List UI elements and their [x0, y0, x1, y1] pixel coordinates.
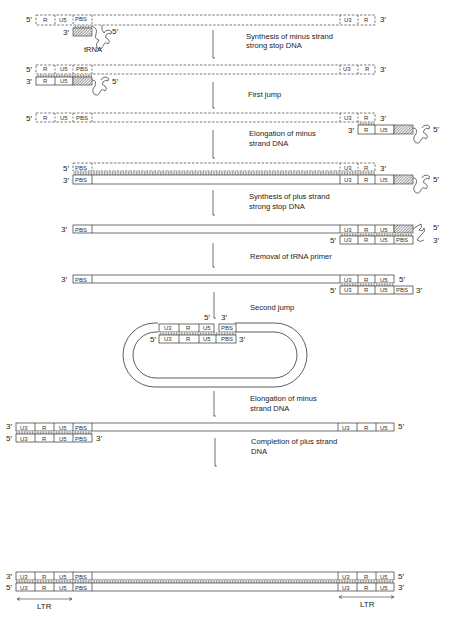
five-prime-label: 5′: [26, 65, 32, 74]
five-prime-label: 5′: [150, 335, 156, 344]
region-u5: U5: [380, 287, 388, 293]
region-u5: U5: [380, 177, 388, 183]
region-r: R: [186, 336, 191, 342]
three-prime-label: 3′: [6, 572, 12, 581]
ltr-right: LTR: [339, 596, 394, 610]
stage-6-trna-removed: 3′ PBS U3 R U5 5′ U3 R U5 PBS 5′ 3′: [61, 275, 422, 295]
stage-8-minus-complete: 3′ U3 R U5 PBS U3 R U5 5′ U3 R U5 PBS 5′…: [6, 422, 404, 443]
region-pbs: PBS: [75, 227, 87, 233]
ltr-label: LTR: [360, 600, 375, 609]
region-pbs: PBS: [221, 325, 233, 331]
region-r: R: [364, 127, 369, 133]
trna-cloverleaf-icon: [413, 125, 430, 143]
region-u5: U5: [380, 237, 388, 243]
step-label: Removal of tRNA primer: [250, 252, 332, 261]
three-prime-label: 3′: [380, 114, 386, 123]
region-u3: U3: [342, 425, 350, 431]
region-pbs: PBS: [75, 574, 87, 580]
trna-cloverleaf-icon: [413, 175, 430, 193]
five-prime-label: 5′: [112, 77, 118, 86]
region-r: R: [364, 177, 369, 183]
region-u5: U5: [380, 574, 388, 580]
region-r: R: [364, 17, 369, 23]
five-prime-label: 5′: [6, 583, 12, 592]
region-pbs: PBS: [75, 16, 87, 22]
region-r: R: [43, 115, 48, 121]
stage-9-double-stranded-dna: 3′ U3 R U5 PBS U3 R U5 5′ U3 R U5 PBS U3…: [6, 572, 404, 611]
three-prime-label: 3′: [433, 236, 439, 245]
stage-2-strong-stop: 5′ R U5 PBS U3 R 3′ R U5 3′ 5′: [26, 65, 386, 95]
reverse-transcription-diagram: 5′ R U5 PBS U3 R 3′ 3′ 5′ tRNA Synthesis…: [0, 0, 454, 619]
region-pbs: PBS: [76, 115, 88, 121]
region-pbs: PBS: [76, 66, 88, 72]
region-u5: U5: [59, 574, 67, 580]
region-u3: U3: [342, 585, 350, 591]
region-r: R: [364, 574, 369, 580]
region-pbs: PBS: [75, 425, 87, 431]
region-r: R: [42, 574, 47, 580]
three-prime-label: 3′: [26, 77, 32, 86]
three-prime-label: 3′: [380, 65, 386, 74]
region-r: R: [364, 165, 369, 171]
region-u5: U5: [380, 425, 388, 431]
region-u5: U5: [380, 227, 388, 233]
three-prime-label: 3′: [398, 583, 404, 592]
region-u5: U5: [380, 277, 388, 283]
region-r: R: [364, 287, 369, 293]
region-u3: U3: [344, 177, 352, 183]
three-prime-label: 3′: [61, 225, 67, 234]
region-u3: U3: [164, 336, 172, 342]
five-prime-label: 5′: [6, 434, 12, 443]
three-prime-label: 3′: [63, 28, 69, 37]
region-r: R: [43, 17, 48, 23]
ltr-label: LTR: [37, 602, 52, 611]
region-u3: U3: [344, 115, 352, 121]
region-r: R: [43, 66, 48, 72]
trna-cloverleaf-icon: [92, 77, 109, 95]
region-pbs: PBS: [396, 287, 408, 293]
trna-label: tRNA: [84, 45, 103, 54]
step-label: Synthesis of plus strand: [249, 192, 330, 201]
region-pbs: PBS: [75, 165, 87, 171]
region-r: R: [364, 585, 369, 591]
three-prime-label: 3′: [380, 15, 386, 24]
region-u3: U3: [344, 165, 352, 171]
step-label: strong stop DNA: [246, 41, 303, 50]
region-u5: U5: [60, 78, 68, 84]
region-u5: U5: [59, 436, 67, 442]
region-r: R: [365, 66, 370, 72]
five-prime-label: 5′: [398, 422, 404, 431]
region-u3: U3: [342, 574, 350, 580]
region-u5: U5: [59, 425, 67, 431]
region-r: R: [42, 425, 47, 431]
region-u5: U5: [60, 115, 68, 121]
five-prime-label: 5′: [63, 164, 69, 173]
step-label: Second jump: [250, 303, 294, 312]
region-u5: U5: [380, 127, 388, 133]
region-u3: U3: [344, 227, 352, 233]
three-prime-label: 3′: [61, 275, 67, 284]
region-u3: U3: [344, 237, 352, 243]
five-prime-label: 5′: [26, 114, 32, 123]
three-prime-label: 3′: [96, 434, 102, 443]
step-label: Elongation of minus: [250, 394, 317, 403]
region-u5: U5: [59, 17, 67, 23]
three-prime-label: 3′: [416, 286, 422, 295]
region-u5: U5: [60, 66, 68, 72]
three-prime-label: 3′: [6, 422, 12, 431]
five-prime-label: 5′: [26, 15, 32, 24]
five-prime-label: 5′: [112, 27, 118, 36]
five-prime-label: 5′: [398, 572, 404, 581]
step-label: Synthesis of minus strand: [246, 32, 333, 41]
region-pbs: PBS: [396, 237, 408, 243]
region-r: R: [364, 227, 369, 233]
five-prime-label: 5′: [204, 313, 210, 322]
three-prime-label: 3′: [380, 164, 386, 173]
five-prime-label: 5′: [433, 175, 439, 184]
region-u3: U3: [344, 287, 352, 293]
region-u5: U5: [203, 336, 211, 342]
step-label: strand DNA: [250, 404, 290, 413]
region-pbs: PBS: [75, 177, 87, 183]
region-u5: U5: [380, 585, 388, 591]
stage-5-plus-strong-stop: 3′ PBS U3 R U5 U3 R U5 PBS 5′ 5′ 3′: [61, 223, 439, 245]
